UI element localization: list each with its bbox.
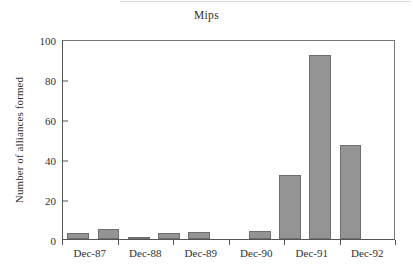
x-tick-label: Dec-87 [74, 247, 106, 259]
x-tick-mark [173, 240, 174, 245]
y-tick-label: 20 [45, 196, 63, 207]
y-tick-label: 60 [45, 116, 63, 127]
x-tick-mark [395, 240, 396, 245]
chart-figure: Mips Number of alliances formed 02040608… [0, 0, 413, 279]
scan-artifact-line [120, 1, 410, 2]
x-tick-label: Dec-89 [185, 247, 217, 259]
bar [249, 231, 271, 239]
x-tick-mark [284, 240, 285, 245]
y-axis-label: Number of alliances formed [13, 77, 25, 203]
y-tick-label: 40 [45, 156, 63, 167]
plot-area: 020406080100 [62, 40, 395, 240]
bar [98, 229, 120, 239]
bar [188, 232, 210, 239]
bar [279, 175, 301, 239]
bar [158, 233, 180, 239]
y-axis-label-container: Number of alliances formed [8, 40, 30, 240]
x-tick-label: Dec-88 [129, 247, 161, 259]
chart-title: Mips [0, 9, 413, 21]
x-axis-ticks: Dec-87Dec-88Dec-89Dec-90Dec-91Dec-92 [62, 240, 395, 276]
x-tick-mark [118, 240, 119, 245]
x-tick-label: Dec-91 [296, 247, 328, 259]
bar [128, 237, 150, 239]
bar [340, 145, 362, 239]
x-tick-mark [340, 240, 341, 245]
bar [67, 233, 89, 239]
bar [309, 55, 331, 239]
y-tick-label: 100 [40, 36, 64, 47]
x-tick-mark [62, 240, 63, 245]
x-tick-label: Dec-92 [351, 247, 383, 259]
x-tick-label: Dec-90 [240, 247, 272, 259]
bar-series [63, 41, 394, 239]
y-tick-label: 80 [45, 76, 63, 87]
x-tick-mark [229, 240, 230, 245]
